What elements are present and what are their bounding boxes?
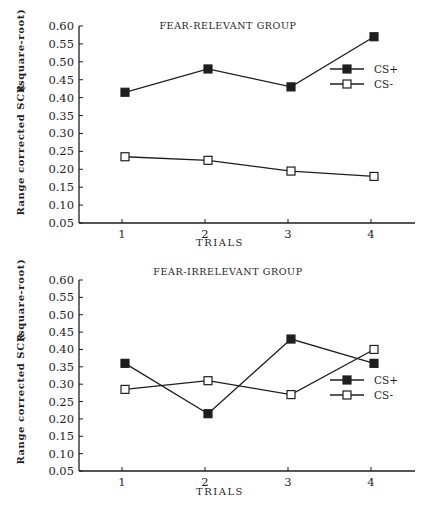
y-tick-label: 0.35 (48, 360, 74, 374)
filled-square-marker-icon (370, 359, 378, 367)
chart-title: FEAR-RELEVANT GROUP (159, 20, 296, 31)
series-line (125, 339, 374, 414)
open-square-legend-icon (343, 80, 351, 88)
y-tick-label: 0.40 (48, 91, 74, 105)
open-square-legend-icon (343, 391, 351, 399)
legend-label: CS+ (374, 374, 398, 386)
series-cs-plus (121, 335, 378, 418)
series-cs-plus (121, 33, 378, 97)
y-tick-label: 0.30 (48, 377, 74, 391)
chart-title: FEAR-IRRELEVANT GROUP (153, 266, 302, 277)
filled-square-legend-icon (343, 65, 351, 73)
open-square-marker-icon (370, 172, 378, 180)
series-cs-minus (121, 153, 378, 181)
y-tick-label: 0.15 (48, 429, 74, 443)
filled-square-marker-icon (287, 335, 295, 343)
x-axis-label: TRIALS (196, 237, 244, 248)
filled-square-marker-icon (287, 83, 295, 91)
open-square-marker-icon (204, 156, 212, 164)
filled-square-marker-icon (121, 359, 129, 367)
y-axis-label-unit: (square-root) (15, 9, 26, 92)
y-tick-label: 0.60 (48, 273, 74, 287)
y-tick-label: 0.55 (48, 37, 74, 51)
series-line (125, 157, 374, 177)
y-tick-label: 0.55 (48, 290, 74, 304)
y-tick-label: 0.60 (48, 19, 74, 33)
x-axis-label: TRIALS (196, 486, 244, 497)
open-square-marker-icon (204, 377, 212, 385)
chart-svg: FEAR-IRRELEVANT GROUP0.600.550.500.450.4… (0, 254, 424, 506)
x-tick-label: 3 (284, 227, 291, 241)
y-tick-label: 0.20 (48, 162, 74, 176)
y-tick-label: 0.45 (48, 73, 74, 87)
open-square-marker-icon (287, 167, 295, 175)
y-axis-label: Range corrected SCR (15, 84, 26, 215)
y-tick-label: 0.50 (48, 55, 74, 69)
legend-label: CS+ (374, 63, 398, 75)
x-tick-label: 4 (367, 227, 374, 241)
legend-label: CS- (374, 389, 394, 401)
y-tick-label: 0.05 (48, 216, 74, 230)
y-tick-label: 0.10 (48, 447, 74, 461)
filled-square-marker-icon (370, 33, 378, 41)
chart-svg: FEAR-RELEVANT GROUP0.600.550.500.450.400… (0, 0, 424, 252)
y-tick-label: 0.40 (48, 342, 74, 356)
legend: CS+CS- (330, 374, 398, 401)
open-square-marker-icon (121, 153, 129, 161)
y-tick-label: 0.30 (48, 126, 74, 140)
legend-label: CS- (374, 78, 394, 90)
y-tick-label: 0.15 (48, 180, 74, 194)
open-square-marker-icon (370, 345, 378, 353)
chart-fear-irrelevant: FEAR-IRRELEVANT GROUP0.600.550.500.450.4… (0, 254, 424, 506)
x-tick-label: 4 (367, 475, 374, 489)
y-tick-label: 0.45 (48, 325, 74, 339)
y-tick-label: 0.05 (48, 464, 74, 478)
y-tick-label: 0.20 (48, 412, 74, 426)
y-tick-label: 0.50 (48, 308, 74, 322)
x-tick-label: 1 (118, 227, 125, 241)
x-tick-label: 3 (284, 475, 291, 489)
filled-square-marker-icon (204, 65, 212, 73)
filled-square-marker-icon (204, 410, 212, 418)
y-tick-label: 0.25 (48, 395, 74, 409)
series-line (125, 349, 374, 394)
y-tick-label: 0.25 (48, 144, 74, 158)
open-square-marker-icon (287, 391, 295, 399)
y-axis-label-unit: (square-root) (15, 259, 26, 342)
chart-fear-relevant: FEAR-RELEVANT GROUP0.600.550.500.450.400… (0, 0, 424, 252)
x-tick-label: 1 (118, 475, 125, 489)
y-axis-label: Range corrected SCR (15, 333, 26, 464)
legend: CS+CS- (330, 63, 398, 90)
y-tick-label: 0.10 (48, 198, 74, 212)
open-square-marker-icon (121, 385, 129, 393)
filled-square-legend-icon (343, 376, 351, 384)
filled-square-marker-icon (121, 88, 129, 96)
y-tick-label: 0.35 (48, 109, 74, 123)
